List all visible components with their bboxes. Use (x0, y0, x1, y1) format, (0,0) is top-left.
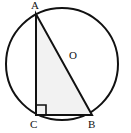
geometry-canvas (0, 0, 131, 133)
vertex-label-b: B (88, 119, 95, 130)
geometry-figure: A O C B (0, 0, 131, 133)
vertex-label-a: A (31, 0, 39, 11)
inscribed-right-triangle (36, 14, 92, 115)
center-label-o: O (69, 50, 77, 61)
vertex-label-c: C (30, 119, 37, 130)
